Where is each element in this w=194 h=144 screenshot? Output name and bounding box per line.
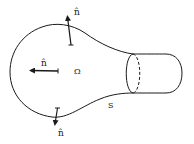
normal-top	[68, 17, 74, 45]
neck-cap	[133, 54, 182, 93]
diagram-canvas: n̂ n̂ Ω n̂ S	[0, 0, 194, 144]
normal-label-left: n̂	[41, 58, 47, 68]
normal-bottom	[55, 108, 60, 124]
surface-boundary	[10, 24, 133, 117]
cross-section-back	[133, 54, 140, 93]
bulb-diagram: n̂ n̂ Ω n̂ S	[0, 0, 194, 144]
normal-label-bottom: n̂	[58, 128, 64, 138]
normal-label-top: n̂	[74, 7, 80, 17]
cross-section-front	[126, 54, 133, 93]
surface-label: S	[108, 101, 113, 110]
region-label: Ω	[74, 67, 81, 76]
normal-left	[31, 69, 58, 74]
